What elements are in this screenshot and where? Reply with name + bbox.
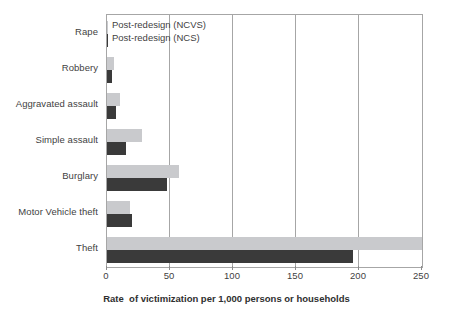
x-tick-label-200: 200 [350,270,366,282]
bar-burglary-ncs [107,178,167,191]
category-label-robbery: Robbery [0,62,98,73]
bar-simple-assault-ncs [107,142,126,155]
x-tick-label-150: 150 [287,270,303,282]
category-label-motor-vehicle-theft: Motor Vehicle theft [0,206,98,217]
x-tick-label-50: 50 [164,270,175,282]
category-label-theft: Theft [0,242,98,253]
legend-item-ncs: Post-redesign (NCS) [112,31,206,44]
bar-group-motor-vehicle-theft [107,195,422,231]
plot-area [106,14,423,268]
bar-chart: Rape Robbery Aggravated assault Simple a… [0,0,453,319]
bar-aggravated-assault-ncs [107,106,116,119]
bar-group-simple-assault [107,123,422,159]
x-tick-label-100: 100 [224,270,240,282]
category-axis-labels: Rape Robbery Aggravated assault Simple a… [0,14,102,266]
legend-item-ncvs: Post-redesign (NCVS) [112,18,206,31]
bar-aggravated-assault-ncvs [107,93,120,106]
category-label-rape: Rape [0,26,98,37]
x-tick-label-250: 250 [413,270,429,282]
category-label-simple-assault: Simple assault [0,134,98,145]
bar-group-aggravated-assault [107,87,422,123]
category-label-burglary: Burglary [0,170,98,181]
x-axis-title: Rate of victimization per 1,000 persons … [0,293,453,304]
bar-robbery-ncvs [107,57,114,70]
x-axis: 0 50 100 150 200 250 [106,266,422,282]
bar-group-theft [107,231,422,267]
bar-theft-ncvs [107,237,422,250]
bar-rape-ncvs [107,21,108,34]
bar-simple-assault-ncvs [107,129,142,142]
category-label-aggravated-assault: Aggravated assault [0,98,98,109]
bar-burglary-ncvs [107,165,179,178]
bar-motor-vehicle-theft-ncs [107,214,132,227]
bar-group-robbery [107,51,422,87]
bar-robbery-ncs [107,70,112,83]
bar-theft-ncs [107,250,353,263]
x-tick-label-0: 0 [103,270,108,282]
bar-motor-vehicle-theft-ncvs [107,201,130,214]
chart-legend: Post-redesign (NCVS) Post-redesign (NCS) [112,18,206,44]
bar-rape-ncs [107,34,108,47]
bar-group-burglary [107,159,422,195]
